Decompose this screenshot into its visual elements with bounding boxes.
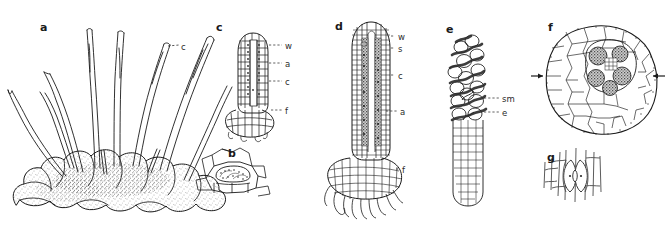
panel-f-artwork: [546, 26, 657, 135]
stoma-marks: [361, 42, 367, 46]
panel-d-label-archesporium: a: [400, 108, 405, 117]
panel-letter-g: g: [547, 152, 555, 163]
panel-letter-a: a: [40, 22, 47, 33]
panel-d-label-wall: w: [398, 33, 405, 42]
figure-plate: a b c d e f g c w a c f w s c a f sm e: [0, 0, 671, 230]
panel-a-label-capsule: c: [181, 43, 186, 52]
panel-d-label-foot: f: [402, 166, 405, 175]
panel-d-artwork: [325, 22, 403, 219]
panel-d-leaders: [386, 36, 399, 169]
panel-e-artwork: [448, 35, 486, 206]
arrow-right-glyph: [653, 73, 665, 78]
figure-artwork: [0, 0, 671, 230]
panel-letter-f: f: [548, 22, 553, 33]
panel-letter-e: e: [446, 24, 453, 35]
panel-letter-c: c: [216, 22, 223, 33]
panel-c-label-columella: c: [285, 78, 290, 87]
panel-letter-d: d: [335, 21, 343, 32]
sporophytes: [8, 29, 232, 182]
panel-e-label-elater: e: [502, 109, 507, 118]
panel-a-artwork: [8, 29, 232, 212]
panel-letter-b: b: [228, 148, 236, 159]
panel-e-label-spore-mother-cell: sm: [502, 95, 515, 104]
panel-c-leaders: [269, 45, 282, 110]
arrow-left-glyph: [531, 73, 543, 78]
panel-d-label-columella: c: [398, 72, 403, 81]
panel-c-artwork: [225, 33, 273, 142]
panel-d-label-stoma: s: [398, 45, 402, 54]
panel-c-label-archesporium: a: [285, 60, 290, 69]
panel-c-label-wall: w: [285, 42, 292, 51]
panel-c-label-foot: f: [285, 107, 288, 116]
